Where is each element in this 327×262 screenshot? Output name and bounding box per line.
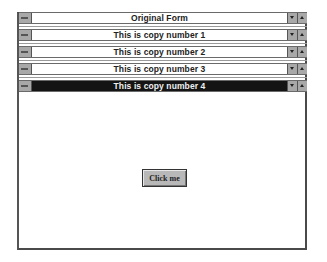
maximize-icon xyxy=(300,84,304,87)
control-menu-icon[interactable] xyxy=(19,64,32,74)
control-menu-icon[interactable] xyxy=(19,13,32,23)
titlebar-original-form[interactable]: Original Form xyxy=(19,12,307,24)
maximize-icon xyxy=(300,33,304,36)
window-title: This is copy number 4 xyxy=(32,81,287,91)
click-me-button[interactable]: Click me xyxy=(142,169,187,187)
menu-separator xyxy=(19,60,307,61)
control-menu-icon[interactable] xyxy=(19,30,32,40)
window-title: Original Form xyxy=(32,13,287,23)
titlebar-copy-4[interactable]: This is copy number 4 xyxy=(19,80,307,92)
menu-separator xyxy=(19,77,307,78)
minimize-icon xyxy=(290,50,294,53)
minimize-button[interactable] xyxy=(287,81,297,91)
minimize-icon xyxy=(290,84,294,87)
control-menu-icon[interactable] xyxy=(19,81,32,91)
menu-separator xyxy=(19,26,307,27)
maximize-icon xyxy=(300,50,304,53)
control-menu-icon[interactable] xyxy=(19,47,32,57)
maximize-button[interactable] xyxy=(297,47,307,57)
minimize-button[interactable] xyxy=(287,64,297,74)
minimize-button[interactable] xyxy=(287,13,297,23)
window-title: This is copy number 2 xyxy=(32,47,287,57)
maximize-button[interactable] xyxy=(297,13,307,23)
maximize-button[interactable] xyxy=(297,64,307,74)
maximize-button[interactable] xyxy=(297,30,307,40)
titlebar-copy-1[interactable]: This is copy number 1 xyxy=(19,29,307,41)
menu-separator xyxy=(19,43,307,44)
titlebar-copy-3[interactable]: This is copy number 3 xyxy=(19,63,307,75)
window-title: This is copy number 1 xyxy=(32,30,287,40)
minimize-icon xyxy=(290,33,294,36)
maximize-icon xyxy=(300,16,304,19)
titlebar-copy-2[interactable]: This is copy number 2 xyxy=(19,46,307,58)
maximize-icon xyxy=(300,67,304,70)
window-title: This is copy number 3 xyxy=(32,64,287,74)
minimize-icon xyxy=(290,67,294,70)
minimize-button[interactable] xyxy=(287,47,297,57)
minimize-button[interactable] xyxy=(287,30,297,40)
minimize-icon xyxy=(290,16,294,19)
maximize-button[interactable] xyxy=(297,81,307,91)
